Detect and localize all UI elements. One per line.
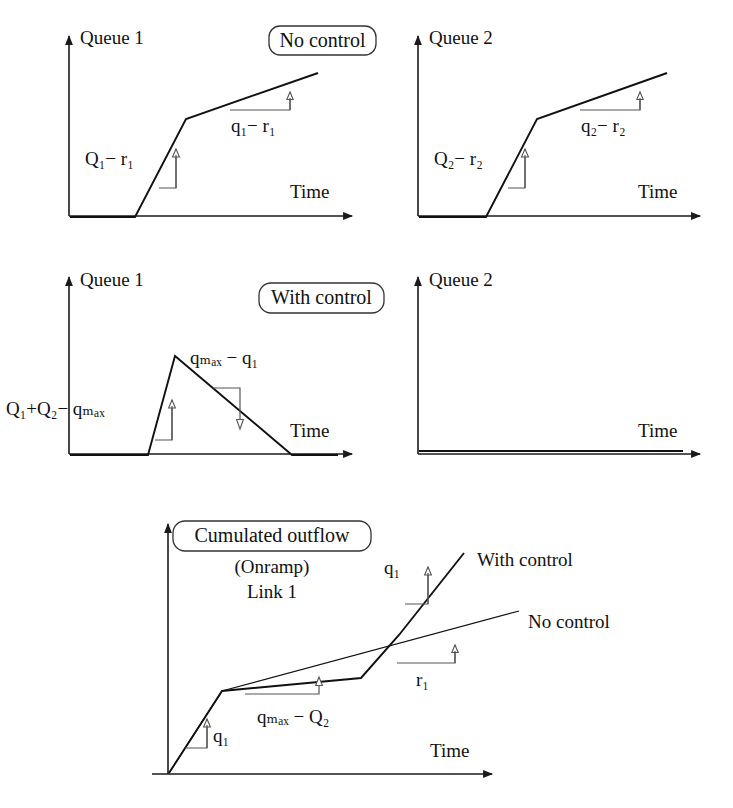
slope-label-steep: Q₁− r₁ <box>85 148 134 169</box>
y-axis-label: Queue 1 <box>80 27 144 48</box>
series-label-with-control: With control <box>477 549 573 570</box>
series-label-no-control: No control <box>528 611 610 632</box>
slope-label-initial: q₁ <box>213 725 229 746</box>
queue2-no-control-curve <box>419 73 667 217</box>
slope-marker-final <box>405 567 431 604</box>
x-axis-label: Time <box>290 181 329 202</box>
slope-label-final: q₁ <box>384 557 400 578</box>
panel-queue1-with-control: Queue 1 Time Q₁+Q₂− qₘₐₓ qₘₐₓ − q₁ With … <box>6 269 384 455</box>
slope-label-no-control: r₁ <box>416 669 429 690</box>
figure-root: Queue 1 Time Q₁− r₁ q₁− r₁ No control Qu… <box>0 0 733 808</box>
callout-cumulated-outflow: Cumulated outflow <box>173 521 371 551</box>
y-axis-sublabel-onramp: (Onramp) <box>235 556 310 578</box>
queue-dynamics-figure: Queue 1 Time Q₁− r₁ q₁− r₁ No control Qu… <box>0 0 733 808</box>
callout-no-control: No control <box>269 26 376 55</box>
callout-with-control: With control <box>259 283 384 313</box>
callout-label: No control <box>279 29 366 51</box>
slope-label-shallow: q₂− r₂ <box>581 115 626 136</box>
panel-queue2-with-control: Queue 2 Time <box>418 269 700 454</box>
callout-label: Cumulated outflow <box>195 524 351 546</box>
slope-label-fall: qₘₐₓ − q₁ <box>190 347 258 368</box>
panel-queue1-no-control: Queue 1 Time Q₁− r₁ q₁− r₁ No control <box>69 26 376 217</box>
slope-label-steep: Q₂− r₂ <box>434 148 483 169</box>
x-axis-label: Time <box>430 740 469 761</box>
x-axis-label: Time <box>638 181 677 202</box>
slope-label-rise: Q₁+Q₂− qₘₐₓ <box>6 398 105 419</box>
panel-queue2-no-control: Queue 2 Time Q₂− r₂ q₂− r₂ <box>418 27 700 217</box>
slope-marker-fall <box>213 388 243 429</box>
slope-label-shallow: q₁− r₁ <box>231 115 276 136</box>
queue1-no-control-curve <box>70 73 318 217</box>
x-axis-label: Time <box>638 420 677 441</box>
slope-label-middle: qₘₐₓ − Q₂ <box>257 706 329 727</box>
y-axis-label: Queue 2 <box>429 27 493 48</box>
y-axis-sublabel-link: Link 1 <box>247 581 297 602</box>
callout-label: With control <box>271 286 372 308</box>
panel-cumulated-outflow: q₁ qₘₐₓ − Q₂ q₁ r₁ With control No contr… <box>152 521 610 774</box>
slope-marker-no-control <box>397 645 458 663</box>
y-axis-label: Queue 1 <box>80 269 144 290</box>
x-axis-label: Time <box>290 420 329 441</box>
y-axis-label: Queue 2 <box>429 269 493 290</box>
slope-marker-steep <box>159 149 180 188</box>
